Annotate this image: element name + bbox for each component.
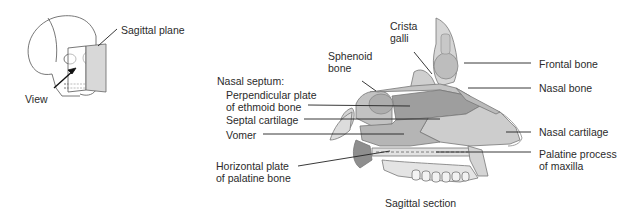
vomer-label: Vomer (226, 129, 256, 141)
perpendicular-plate-label: Perpendicular plate of ethmoid bone (226, 89, 316, 113)
palatine-process-label: Palatine process of maxilla (539, 148, 617, 172)
skull-inset-icon (28, 16, 117, 96)
horizontal-plate-label: Horizontal plate of palatine bone (216, 160, 291, 184)
crista-galli-label: Crista galli (390, 20, 417, 44)
sphenoid-bone-label: Sphenoid bone (328, 50, 372, 74)
frontal-bone-label: Frontal bone (539, 58, 598, 70)
sagittal-section-drawing (330, 18, 522, 182)
nasal-bone-label: Nasal bone (539, 82, 592, 94)
sagittal-plane-label: Sagittal plane (121, 24, 185, 36)
nasal-cartilage-label: Nasal cartilage (539, 126, 608, 138)
view-label: View (25, 93, 48, 105)
septal-cartilage-label: Septal cartilage (226, 114, 298, 126)
figure-caption: Sagittal section (385, 197, 456, 209)
nasal-septum-heading: Nasal septum: (217, 75, 284, 87)
